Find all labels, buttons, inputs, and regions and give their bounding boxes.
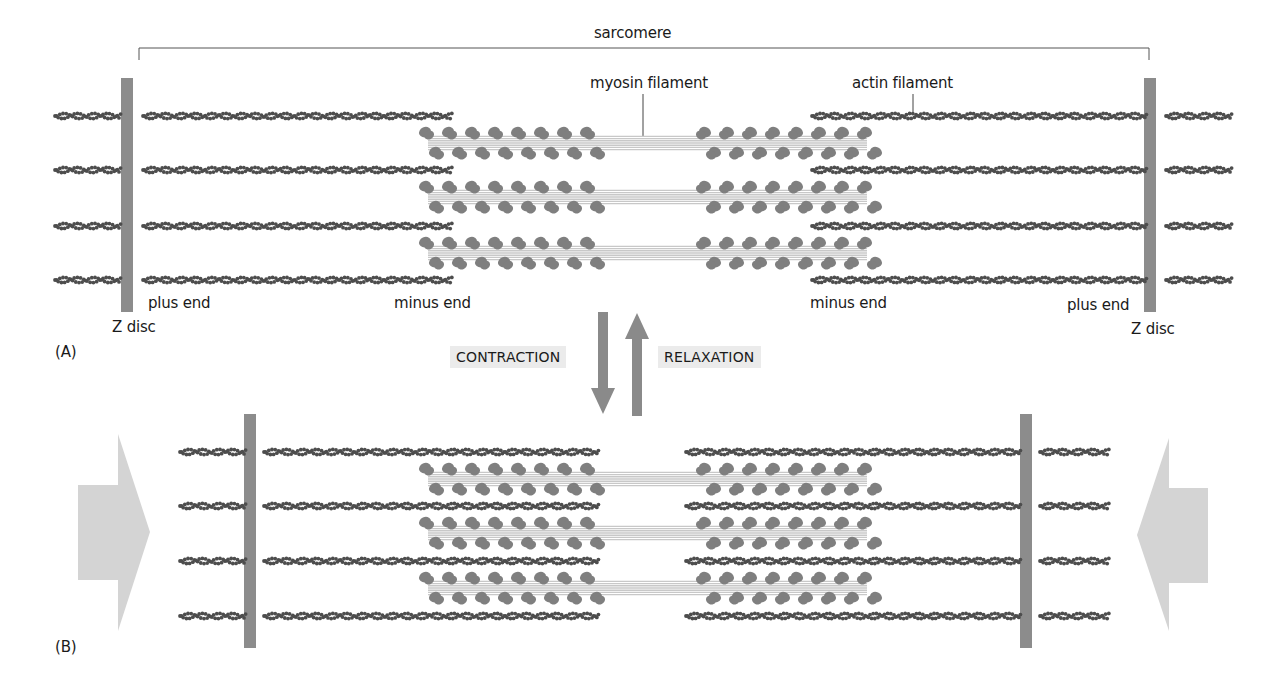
myosin-filament-label: myosin filament xyxy=(590,76,708,91)
actin-filament xyxy=(810,112,1148,121)
actin-filament xyxy=(53,112,122,121)
relaxation-arrow-icon xyxy=(625,313,649,416)
myosin-filament xyxy=(417,179,883,215)
panel-b-contracted xyxy=(178,414,1111,648)
z-disc xyxy=(121,78,133,312)
actin-filament xyxy=(262,502,600,511)
sarcomere-label: sarcomere xyxy=(594,26,671,41)
sarcomere-diagram: sarcomere myosin filament actin filament… xyxy=(0,0,1280,684)
actin-filament xyxy=(178,502,247,511)
actin-filament xyxy=(178,557,247,566)
relaxation-label: RELAXATION xyxy=(658,346,761,368)
myosin-filament xyxy=(417,235,883,271)
myosin-filament xyxy=(417,570,883,606)
contraction-label: CONTRACTION xyxy=(450,346,566,368)
actin-filament xyxy=(262,448,600,457)
actin-filament-label: actin filament xyxy=(852,76,953,91)
actin-filament xyxy=(1164,112,1233,121)
actin-filament xyxy=(141,222,454,231)
actin-filament xyxy=(53,166,122,175)
actin-filament xyxy=(262,557,600,566)
actin-filament xyxy=(178,448,247,457)
z-disc xyxy=(1020,414,1032,648)
actin-filament xyxy=(1164,166,1233,175)
force-arrow-right-icon xyxy=(78,434,150,631)
sarcomere-bracket xyxy=(139,48,1149,60)
myosin-filament xyxy=(417,515,883,551)
actin-filament xyxy=(684,612,1022,621)
actin-filament xyxy=(262,612,600,621)
actin-filament xyxy=(1164,222,1233,231)
z-disc-left-label: Z disc xyxy=(112,320,156,335)
actin-filament xyxy=(684,557,1022,566)
actin-filament xyxy=(178,612,247,621)
actin-filament xyxy=(684,502,1022,511)
force-arrow-left-icon xyxy=(1137,438,1208,631)
actin-filament xyxy=(810,222,1148,231)
plus-end-right-label: plus end xyxy=(1067,298,1129,313)
panel-b-label: (B) xyxy=(55,640,76,655)
plus-end-left-label: plus end xyxy=(148,296,210,311)
actin-filament xyxy=(1038,557,1111,566)
myosin-filament xyxy=(417,125,883,161)
actin-filament xyxy=(141,276,454,285)
diagram-artwork xyxy=(0,0,1280,684)
actin-filament xyxy=(810,276,1148,285)
panel-a-label: (A) xyxy=(55,345,76,360)
actin-filament xyxy=(1038,612,1111,621)
z-disc-right-label: Z disc xyxy=(1131,322,1175,337)
myosin-filament xyxy=(417,461,883,497)
actin-filament xyxy=(141,166,454,175)
actin-filament xyxy=(53,222,122,231)
actin-filament xyxy=(141,112,454,121)
actin-filament xyxy=(810,166,1148,175)
minus-end-right-label: minus end xyxy=(810,296,887,311)
contraction-arrow-icon xyxy=(591,312,615,414)
actin-filament xyxy=(1038,448,1111,457)
actin-filament xyxy=(1038,502,1111,511)
actin-filament xyxy=(684,448,1022,457)
actin-filament xyxy=(53,276,122,285)
actin-filament xyxy=(1164,276,1233,285)
minus-end-left-label: minus end xyxy=(394,296,471,311)
